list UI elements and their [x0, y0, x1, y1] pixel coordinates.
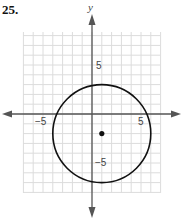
y-axis-down-arrow-icon [89, 207, 96, 218]
y-tick-label-neg5: −5 [95, 157, 107, 168]
x-tick-label-neg5: −5 [35, 116, 47, 127]
center-point [99, 131, 104, 136]
x-tick-label-5: 5 [138, 116, 144, 127]
coordinate-plane: y 5 −5 −5 5 [0, 0, 183, 220]
y-axis [89, 14, 96, 218]
y-axis-up-arrow-icon [89, 14, 96, 25]
x-axis-right-arrow-icon [171, 111, 181, 118]
y-tick-label-5: 5 [96, 60, 102, 71]
x-axis-left-arrow-icon [2, 111, 12, 118]
y-axis-label: y [87, 1, 93, 13]
